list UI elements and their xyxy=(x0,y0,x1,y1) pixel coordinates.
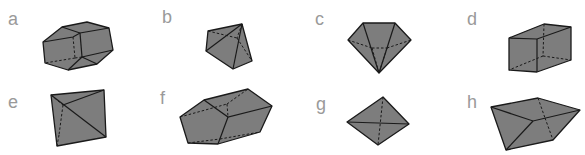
polyhedron-f xyxy=(180,89,272,144)
polyhedron-e xyxy=(51,90,106,146)
polyhedron-a xyxy=(43,22,113,70)
polyhedron-g xyxy=(347,97,409,145)
polyhedron-d xyxy=(509,24,571,72)
polyhedra-figure xyxy=(0,0,585,155)
polyhedron-h xyxy=(491,98,580,150)
polyhedron-c xyxy=(348,23,411,73)
polyhedron-b xyxy=(206,24,252,69)
